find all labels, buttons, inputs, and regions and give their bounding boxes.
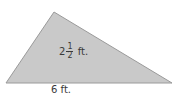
height-label: 212 ft. — [59, 43, 88, 60]
triangle-diagram: 212 ft. 6 ft. — [0, 0, 175, 95]
fraction-denominator: 2 — [67, 52, 72, 60]
height-fraction: 12 — [66, 43, 73, 60]
base-label: 6 ft. — [51, 85, 71, 95]
height-unit: ft. — [78, 46, 88, 57]
height-whole: 2 — [59, 46, 65, 57]
